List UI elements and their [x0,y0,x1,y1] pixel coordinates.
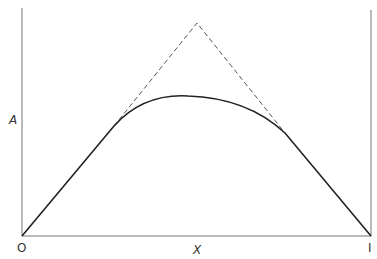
dashed-triangle [114,23,285,133]
solid-curve [22,96,371,236]
x-axis-label: X [192,243,202,257]
y-axis-label: A [8,113,17,127]
x-tick-end: I [368,241,372,255]
x-tick-start: O [17,241,26,255]
diagram-canvas: A X O I [0,0,377,259]
